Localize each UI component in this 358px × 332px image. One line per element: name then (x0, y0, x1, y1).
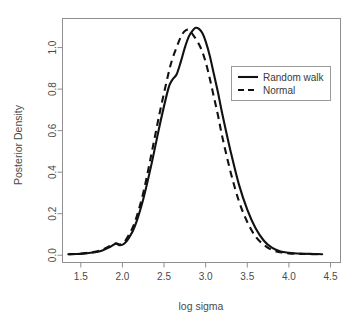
y-axis-tick-labels: 0.00.20.40.60.81.0 (47, 40, 58, 262)
x-tick-label-2.5: 2.5 (157, 271, 171, 282)
x-tick-label-3.5: 3.5 (240, 271, 254, 282)
x-axis-tick-labels: 1.52.02.53.03.54.04.5 (74, 271, 338, 282)
x-tick-label-1.5: 1.5 (74, 271, 88, 282)
x-tick-label-2.0: 2.0 (115, 271, 129, 282)
plot-canvas: 0.00.20.40.60.81.0 1.52.02.53.03.54.04.5… (0, 0, 358, 332)
x-axis-tickmarks (81, 263, 331, 268)
x-tick-label-4.5: 4.5 (324, 271, 338, 282)
series-line-normal (68, 30, 322, 255)
y-tick-label-0.4: 0.4 (47, 165, 58, 179)
y-tick-label-0.0: 0.0 (47, 248, 58, 262)
x-tick-label-3.0: 3.0 (199, 271, 213, 282)
plot-frame (63, 19, 341, 263)
x-tick-label-4.0: 4.0 (282, 271, 296, 282)
x-axis-title: log sigma (179, 300, 224, 312)
legend: Random walk Normal (232, 67, 331, 101)
legend-label-normal: Normal (263, 85, 295, 96)
legend-label-random-walk: Random walk (263, 72, 325, 83)
y-tick-label-0.2: 0.2 (47, 206, 58, 220)
y-tick-label-0.8: 0.8 (47, 82, 58, 96)
y-tick-label-0.6: 0.6 (47, 123, 58, 137)
y-axis-tickmarks (58, 48, 63, 256)
series-line-random-walk (68, 28, 322, 254)
density-plot-figure: 0.00.20.40.60.81.0 1.52.02.53.03.54.04.5… (0, 0, 358, 332)
y-tick-label-1.0: 1.0 (47, 40, 58, 54)
y-axis-title: Posterior Density (12, 104, 24, 185)
